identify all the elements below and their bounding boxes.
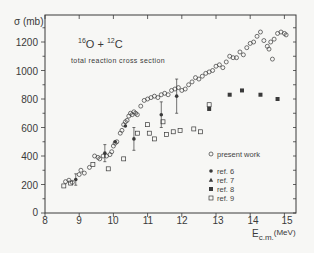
data-point-ref-6	[159, 113, 163, 117]
x-axis-unit: (MeV)	[274, 228, 296, 237]
x-tick-13: 13	[208, 215, 228, 226]
data-point-ref-8	[228, 93, 232, 97]
y-tick-200: 200	[4, 180, 38, 191]
data-point-ref-9	[171, 130, 175, 134]
x-tick-15: 15	[277, 215, 297, 226]
data-point-present-work	[270, 57, 274, 61]
data-point-present-work	[262, 39, 266, 43]
x-axis-symbol: E	[252, 228, 259, 239]
chart-subtitle: total reaction cross section	[71, 57, 165, 64]
legend-present-work: present work	[217, 150, 260, 159]
x-axis-label: Ec.m.(MeV)	[252, 228, 296, 242]
data-point-ref-8	[276, 97, 280, 101]
data-point-ref-9	[164, 133, 168, 137]
chart-title: 16O + 12C	[78, 37, 123, 50]
y-tick-1000: 1000	[4, 66, 38, 77]
data-point-present-work	[197, 77, 201, 81]
data-point-present-work	[79, 168, 83, 172]
data-point-present-work	[245, 46, 249, 50]
data-point-ref-8	[207, 107, 211, 111]
data-point-ref-9	[146, 123, 150, 127]
data-point-present-work	[272, 37, 276, 41]
legend-ref6: ref. 6	[217, 167, 234, 176]
data-point-present-work	[187, 83, 191, 87]
x-tick-14: 14	[243, 215, 263, 226]
x-tick-12: 12	[172, 215, 192, 226]
data-point-ref-6	[113, 140, 117, 144]
legend-ref7: ref. 7	[217, 176, 234, 185]
legend-marker-ref-7	[209, 178, 213, 182]
data-point-present-work	[200, 74, 204, 78]
legend-marker-present-work	[209, 152, 213, 156]
data-point-present-work	[156, 96, 160, 100]
data-point-ref-6	[103, 151, 107, 155]
data-point-ref-9	[207, 103, 211, 107]
data-point-ref-9	[91, 163, 95, 167]
data-point-ref-6	[124, 124, 128, 128]
title-element-b: C	[115, 38, 123, 50]
title-plus: +	[97, 38, 103, 50]
data-point-ref-6	[74, 178, 78, 182]
title-mass-b: 12	[107, 37, 115, 44]
data-point-ref-9	[199, 130, 203, 134]
y-tick-0: 0	[4, 207, 38, 218]
data-point-present-work	[269, 40, 273, 44]
data-point-present-work	[190, 80, 194, 84]
data-point-present-work	[217, 63, 221, 67]
data-point-ref-6	[175, 94, 179, 98]
data-point-present-work	[252, 40, 256, 44]
y-axis-label: σ (mb)	[14, 16, 44, 27]
data-point-present-work	[224, 60, 228, 64]
data-point-present-work	[211, 69, 215, 73]
title-element-a: O	[86, 38, 95, 50]
y-tick-400: 400	[4, 151, 38, 162]
data-point-ref-8	[258, 93, 262, 97]
data-point-present-work	[258, 30, 262, 34]
legend-ref9: ref. 9	[217, 194, 234, 203]
legend-marker-ref-8	[209, 187, 213, 191]
data-point-present-work	[238, 50, 242, 54]
x-tick-9: 9	[69, 215, 89, 226]
x-axis-subscript: c.m.	[259, 233, 274, 242]
data-point-ref-9	[152, 137, 156, 141]
data-point-present-work	[241, 53, 245, 57]
legend-marker-ref-9	[209, 196, 213, 200]
data-point-ref-9	[147, 131, 151, 135]
data-point-present-work	[255, 34, 259, 38]
title-mass-a: 16	[78, 37, 86, 44]
x-tick-10: 10	[103, 215, 123, 226]
y-tick-1200: 1200	[4, 37, 38, 48]
x-tick-11: 11	[138, 215, 158, 226]
data-point-ref-8	[240, 88, 244, 92]
cross-section-figure: σ (mb) 1200 1000 800 600 400 200 0 8 9 1…	[0, 0, 314, 253]
y-tick-800: 800	[4, 94, 38, 105]
data-point-ref-9	[106, 167, 110, 171]
y-tick-600: 600	[4, 123, 38, 134]
data-point-present-work	[77, 173, 81, 177]
data-point-ref-9	[122, 157, 126, 161]
data-point-ref-6	[132, 137, 136, 141]
data-point-present-work	[166, 93, 170, 97]
data-point-ref-9	[192, 127, 196, 131]
legend-marker-ref-6	[209, 169, 213, 173]
legend-ref8: ref. 8	[217, 185, 234, 194]
data-point-present-work	[183, 87, 187, 91]
data-point-ref-9	[62, 184, 66, 188]
data-point-present-work	[221, 66, 225, 70]
data-point-ref-9	[135, 131, 139, 135]
x-tick-8: 8	[35, 215, 55, 226]
data-point-ref-9	[178, 128, 182, 132]
data-point-present-work	[82, 171, 86, 175]
data-point-present-work	[139, 104, 143, 108]
